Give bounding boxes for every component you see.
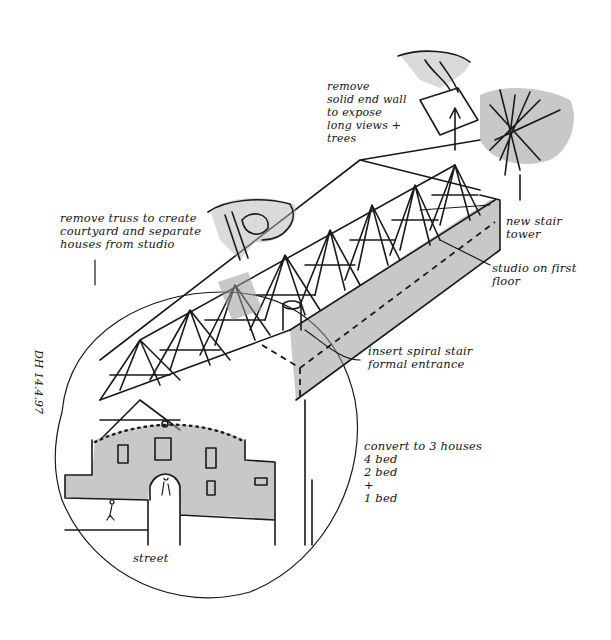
tree bbox=[480, 88, 574, 200]
annotation-street: street bbox=[133, 552, 168, 565]
annotation-new-stair-tower: new stair tower bbox=[506, 215, 562, 241]
gable-end-facade bbox=[65, 421, 275, 545]
annotation-studio-first-floor: studio on first floor bbox=[492, 262, 577, 288]
annotation-spiral-stair: insert spiral stair formal entrance bbox=[368, 345, 473, 371]
hand-removing-truss bbox=[208, 198, 296, 260]
hand-removing-wall bbox=[398, 51, 478, 150]
annotation-convert-houses: convert to 3 houses 4 bed 2 bed + 1 bed bbox=[364, 440, 482, 505]
barn-sketch bbox=[0, 0, 611, 640]
annotation-remove-truss: remove truss to create courtyard and sep… bbox=[60, 212, 201, 251]
annotation-date-signature: DH 14.4.97 bbox=[32, 350, 45, 414]
annotation-remove-end-wall: remove solid end wall to expose long vie… bbox=[327, 80, 407, 145]
